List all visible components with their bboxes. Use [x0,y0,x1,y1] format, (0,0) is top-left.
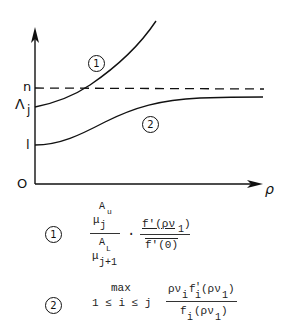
f1-num-sup-u: u [107,208,112,216]
f1-dot: · [127,227,135,241]
plot-svg [0,0,297,200]
dashed-line-n [35,88,264,89]
f1-right-den: f'(0) [145,240,178,251]
legend-marker-1: 1 [45,226,62,243]
f1-num-sub-j: j [100,221,106,231]
f1-den-sub: j+1 [99,258,117,268]
f1-right-num: f'(ρν [142,219,175,230]
curve-2-marker: 2 [142,116,159,133]
f2-range: 1 ≤ i ≤ j [92,298,151,309]
y-label-origin: O [17,177,27,190]
f2-num-a-sub: i [182,291,188,301]
y-label-n: n [23,80,31,93]
f2-den-a: f [180,306,187,317]
f1-den-sup-L: L [106,245,111,253]
f2-den-b-close: ) [221,306,228,317]
f1-num-mu: μ [93,215,100,226]
y-label-lambda-sub: j [27,104,30,116]
f1-left-fraction-line [90,233,120,234]
f2-num-c: (ρν [201,284,221,295]
f2-max: max [111,283,131,294]
f2-den-a-sub: i [187,313,193,323]
curve-1-marker: 1 [88,55,105,72]
f1-right-fraction-line [140,234,190,235]
legend-marker-2: 2 [45,297,62,314]
f1-den-sup-A: A [99,238,105,248]
f1-den-mu: μ [92,251,99,262]
f2-num-a: ρν [168,284,181,295]
f2-fraction-line [166,301,237,302]
f1-num-sup-A: A [99,202,105,212]
f1-right-num-close: ) [184,219,191,230]
y-label-lambda: Λ [15,97,25,111]
f2-den-b: (ρν [194,306,214,317]
x-label-rho: ρ [265,182,274,196]
f2-num-c-close: ) [228,284,235,295]
y-label-one: l [26,138,30,151]
